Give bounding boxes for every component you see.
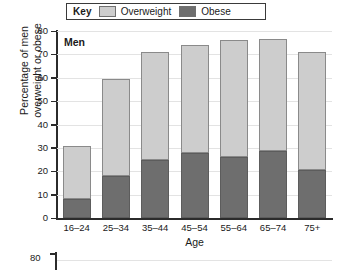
bar-group[interactable] xyxy=(220,31,248,218)
stacked-bar-chart: Percentage of men overweight or obese Me… xyxy=(0,0,337,270)
next-chart-partial: 80 xyxy=(0,252,337,270)
bar-segment-obese[interactable] xyxy=(220,157,248,218)
y-axis-title-line1: Percentage of men xyxy=(18,0,31,156)
y-tick-label: 10 xyxy=(37,190,48,200)
bar-segment-overweight[interactable] xyxy=(259,39,287,151)
y-tick-mark xyxy=(51,171,56,173)
y-tick-mark xyxy=(51,124,56,126)
bar-group[interactable] xyxy=(181,31,209,218)
x-axis-line xyxy=(56,218,333,220)
bar-segment-overweight[interactable] xyxy=(181,45,209,153)
bar-segment-obese[interactable] xyxy=(141,160,169,218)
bar-segment-obese[interactable] xyxy=(102,176,130,218)
bar-segment-overweight[interactable] xyxy=(102,79,130,176)
y-tick-label: 80 xyxy=(37,26,48,36)
y-tick-mark xyxy=(51,31,56,33)
bar-group[interactable] xyxy=(298,31,326,218)
y-tick-mark xyxy=(51,101,56,103)
y-tick-label: 60 xyxy=(37,73,48,83)
y-tick-label: 70 xyxy=(37,49,48,59)
bar-group[interactable] xyxy=(141,31,169,218)
bar-segment-obese[interactable] xyxy=(259,151,287,218)
bar-group[interactable] xyxy=(259,31,287,218)
bar-segment-overweight[interactable] xyxy=(141,52,169,160)
y-tick-label: 20 xyxy=(37,166,48,176)
x-tick-label: 75+ xyxy=(289,222,335,233)
bar-segment-overweight[interactable] xyxy=(220,40,248,157)
y-tick-mark xyxy=(51,147,56,149)
bar-segment-overweight[interactable] xyxy=(63,146,91,200)
next-chart-ytick-label: 80 xyxy=(30,252,41,263)
y-tick-mark xyxy=(51,218,56,220)
bar-group[interactable] xyxy=(102,31,130,218)
y-tick-label: 0 xyxy=(43,213,48,223)
next-chart-gridline xyxy=(57,260,332,261)
x-axis-title: Age xyxy=(57,236,332,248)
y-tick-mark xyxy=(51,194,56,196)
bar-segment-overweight[interactable] xyxy=(298,52,326,170)
next-chart-y-axis-line xyxy=(55,252,57,270)
y-tick-mark xyxy=(51,77,56,79)
y-tick-label: 50 xyxy=(37,96,48,106)
bar-group[interactable] xyxy=(63,31,91,218)
y-tick-label: 40 xyxy=(37,120,48,130)
y-tick-label: 30 xyxy=(37,143,48,153)
bar-segment-obese[interactable] xyxy=(63,199,91,218)
y-tick-mark xyxy=(51,54,56,56)
bar-segment-obese[interactable] xyxy=(181,153,209,218)
bar-segment-obese[interactable] xyxy=(298,170,326,218)
plot-area xyxy=(57,31,332,218)
